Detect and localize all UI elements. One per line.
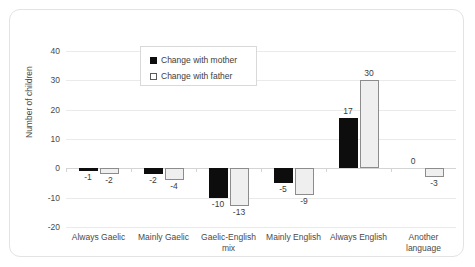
x-axis-tick — [131, 168, 132, 172]
x-tick-label: Always Gaelic — [61, 232, 136, 243]
y-tick-label: 30 — [26, 76, 60, 85]
bar-value-label: -9 — [290, 197, 319, 206]
x-tick-label: Mainly Gaelic — [126, 232, 201, 243]
bar-father[interactable] — [425, 168, 444, 177]
bar-father[interactable] — [165, 168, 184, 180]
bar-mother[interactable] — [274, 168, 293, 183]
bar-father[interactable] — [295, 168, 314, 194]
x-axis-tick — [326, 168, 327, 172]
legend-item-father: Change with father — [150, 69, 256, 83]
y-tick-label: 40 — [26, 47, 60, 56]
bar-mother[interactable] — [79, 168, 98, 171]
plot-area: -1-2-2-4-10-13-5-917300-3 — [66, 51, 456, 227]
x-tick-label: Mainly English — [256, 232, 331, 243]
legend-swatch-father-icon — [150, 73, 157, 80]
x-tick-label: Always English — [321, 232, 396, 243]
x-axis-tick — [261, 168, 262, 172]
bar-value-label: -13 — [225, 208, 254, 217]
gridline — [66, 227, 456, 228]
y-tick-label: -20 — [26, 223, 60, 232]
bar-value-label: 17 — [334, 107, 363, 116]
bar-father[interactable] — [230, 168, 249, 206]
y-tick-label: 20 — [26, 105, 60, 114]
bar-father[interactable] — [100, 168, 119, 174]
legend-item-mother: Change with mother — [150, 53, 256, 67]
bar-mother[interactable] — [339, 118, 358, 168]
x-tick-label: Gaelic-English mix — [191, 232, 266, 253]
bar-value-label: 0 — [399, 157, 428, 166]
y-tick-label: -10 — [26, 193, 60, 202]
gridline — [66, 139, 456, 140]
legend-label-father: Change with father — [161, 72, 232, 81]
bar-value-label: -4 — [160, 182, 189, 191]
chart-card: Number of children 403020100-10-20 -1-2-… — [9, 9, 464, 257]
y-tick-label: 0 — [26, 164, 60, 173]
x-axis-tick — [66, 168, 67, 172]
bar-value-label: -3 — [420, 179, 449, 188]
bar-value-label: -10 — [204, 200, 233, 209]
x-tick-label: Another language — [386, 232, 461, 253]
bar-value-label: -2 — [95, 176, 124, 185]
legend-swatch-mother-icon — [150, 57, 157, 64]
bar-mother[interactable] — [144, 168, 163, 174]
x-axis-tick — [196, 168, 197, 172]
gridline — [66, 51, 456, 52]
bar-value-label: 30 — [355, 69, 384, 78]
gridline — [66, 198, 456, 199]
legend-label-mother: Change with mother — [161, 56, 237, 65]
gridline — [66, 110, 456, 111]
bar-mother[interactable] — [209, 168, 228, 197]
bar-value-label: -5 — [269, 185, 298, 194]
y-tick-label: 10 — [26, 135, 60, 144]
chart-legend: Change with mother Change with father — [140, 46, 257, 86]
bar-father[interactable] — [360, 80, 379, 168]
x-axis-tick — [391, 168, 392, 172]
gridline — [66, 80, 456, 81]
